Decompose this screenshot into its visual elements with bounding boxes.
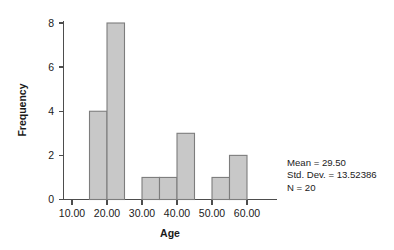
histogram-bar — [160, 177, 178, 199]
stat-n: N = 20 — [287, 182, 377, 194]
stat-std-dev: Std. Dev. = 13.52386 — [287, 169, 377, 181]
x-tick-label-30: 30.00 — [129, 207, 155, 219]
statistics-annotation: Mean = 29.50 Std. Dev. = 13.52386 N = 20 — [287, 157, 377, 194]
y-tick-label-4: 4 — [48, 105, 54, 117]
histogram-figure: 0 2 4 6 8 10.00 20.00 30.00 40.00 50.00 … — [0, 0, 394, 250]
x-axis-tick-labels: 10.00 20.00 30.00 40.00 50.00 60.00 — [59, 207, 260, 219]
histogram-bar — [107, 23, 125, 200]
y-axis-tick-labels: 0 2 4 6 8 — [48, 17, 54, 206]
y-tick-label-0: 0 — [48, 193, 54, 205]
y-tick-label-6: 6 — [48, 61, 54, 73]
x-tick-label-50: 50.00 — [199, 207, 225, 219]
histogram-bar — [230, 155, 248, 199]
x-tick-label-40: 40.00 — [164, 207, 190, 219]
x-axis-ticks — [72, 200, 247, 206]
y-tick-label-2: 2 — [48, 149, 54, 161]
x-tick-label-20: 20.00 — [94, 207, 120, 219]
x-axis-title: Age — [160, 227, 180, 239]
histogram-plot-area: 0 2 4 6 8 10.00 20.00 30.00 40.00 50.00 … — [0, 0, 394, 250]
histogram-bar — [212, 177, 230, 199]
histogram-bar — [90, 111, 108, 199]
y-tick-label-8: 8 — [48, 17, 54, 29]
stat-mean: Mean = 29.50 — [287, 157, 377, 169]
histogram-bars — [90, 23, 248, 200]
histogram-bar — [142, 177, 160, 199]
y-axis-title: Frequency — [16, 83, 28, 136]
x-tick-label-60: 60.00 — [234, 207, 260, 219]
histogram-bar — [177, 133, 195, 199]
x-tick-label-10: 10.00 — [59, 207, 85, 219]
